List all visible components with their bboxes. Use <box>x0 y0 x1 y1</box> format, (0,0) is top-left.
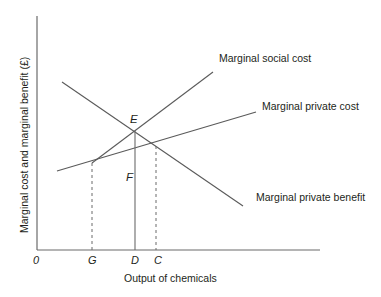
point-label-e: E <box>130 113 138 126</box>
curve-label-marginal-private-cost: Marginal private cost <box>262 100 359 112</box>
axis-tick-label-c: C <box>154 254 162 267</box>
x-axis-label: Output of chemicals <box>124 272 217 284</box>
y-axis-label: Marginal cost and marginal benefit (£) <box>18 57 30 233</box>
externality-diagram-figure: Marginal cost and marginal benefit (£) O… <box>0 0 381 297</box>
curve-label-marginal-social-cost: Marginal social cost <box>219 52 311 64</box>
diagram-svg <box>0 0 381 297</box>
curve-marginal-private-cost <box>57 112 256 171</box>
axis-tick-label-0: 0 <box>33 254 39 267</box>
curve-marginal-social-cost <box>92 72 213 163</box>
axis-tick-label-g: G <box>88 254 97 267</box>
point-label-f: F <box>126 171 133 184</box>
axis-tick-label-d: D <box>131 254 139 267</box>
curve-marginal-private-benefit <box>62 82 243 206</box>
curve-label-marginal-private-benefit: Marginal private benefit <box>256 191 365 203</box>
